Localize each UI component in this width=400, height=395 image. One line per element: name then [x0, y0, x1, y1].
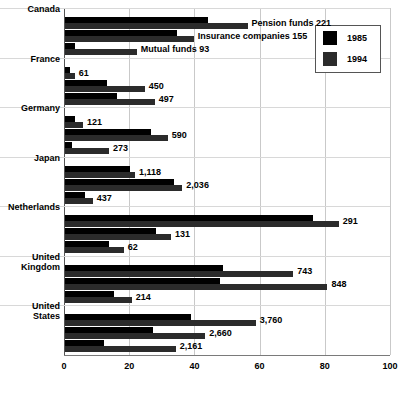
x-axis-line: [64, 355, 390, 356]
bar-1994: [65, 247, 124, 253]
bar-value-label: 497: [159, 95, 174, 104]
bar-1994: [65, 172, 135, 178]
bar-1994: [65, 49, 137, 55]
bar-value-label: 2,161: [180, 342, 203, 351]
x-axis-tick-60: 60: [255, 361, 265, 371]
gridline-x-100: [390, 8, 391, 355]
bar-1994: [65, 198, 93, 204]
bar-1994: [65, 221, 339, 227]
x-axis-tick-0: 0: [61, 361, 66, 371]
bar-value-label: 743: [297, 267, 312, 276]
bar-value-label: 291: [343, 217, 358, 226]
group-label-japan: Japan: [0, 153, 60, 163]
bar-1994: [65, 73, 75, 79]
bar-value-label: 131: [175, 230, 190, 239]
bar-value-label: 1,118: [139, 168, 161, 177]
bar-1994: [65, 297, 132, 303]
bar-1994: [65, 148, 109, 154]
bar-1994: [65, 86, 145, 92]
x-axis-tick-80: 80: [320, 361, 330, 371]
bar-1994: [65, 271, 293, 277]
bar-1994: [65, 333, 205, 339]
x-axis-tick-20: 20: [124, 361, 134, 371]
legend-label-1985: 1985: [347, 33, 367, 43]
group-label-netherlands: Netherlands: [0, 202, 60, 212]
x-axis-tick-100: 100: [382, 361, 397, 371]
gridline-x-60: [260, 8, 261, 355]
group-label-canada: Canada: [0, 4, 60, 14]
group-label-germany: Germany: [0, 103, 60, 113]
bar-value-label: 62: [128, 243, 138, 252]
bar-value-label: 214: [136, 293, 151, 302]
bar-value-label: 437: [97, 194, 112, 203]
group-label-united-kingdom: UnitedKingdom: [0, 252, 60, 272]
bar-value-label: 3,760: [260, 316, 283, 325]
bar-value-label: 450: [149, 82, 164, 91]
bar-value-label: 273: [113, 144, 128, 153]
bar-value-label: Pension funds 221: [252, 19, 332, 28]
bar-value-label: Insurance companies 155: [198, 32, 308, 41]
bar-1994: [65, 320, 256, 326]
bar-1994: [65, 99, 155, 105]
bar-value-label: 121: [87, 118, 102, 127]
bar-value-label: 61: [79, 69, 89, 78]
bar-1994: [65, 122, 83, 128]
group-label-france: France: [0, 54, 60, 64]
legend-swatch-1985: [323, 31, 337, 45]
legend-swatch-1994: [323, 52, 337, 66]
bar-value-label: 590: [172, 131, 187, 140]
bar-1994: [65, 135, 168, 141]
bar-value-label: 848: [331, 280, 346, 289]
bar-1994: [65, 23, 248, 29]
chart-legend: 1985 1994: [315, 25, 381, 73]
legend-label-1994: 1994: [347, 54, 367, 64]
bar-chart: 1985 1994 020406080100CanadaPension fund…: [0, 0, 400, 395]
bar-1994: [65, 284, 327, 290]
bar-value-label: 2,660: [209, 329, 232, 338]
bar-value-label: 2,036: [186, 181, 209, 190]
bar-1994: [65, 346, 176, 352]
bar-1994: [65, 185, 182, 191]
bar-1994: [65, 234, 171, 240]
group-label-united-states: UnitedStates: [0, 301, 60, 321]
bar-1994: [65, 36, 194, 42]
bar-value-label: Mutual funds 93: [141, 45, 210, 54]
x-axis-tick-40: 40: [189, 361, 199, 371]
